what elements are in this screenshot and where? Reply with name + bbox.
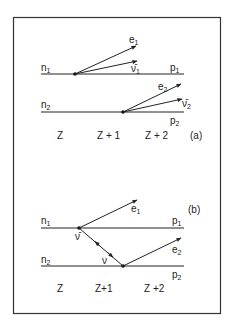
p2-label-a: p2	[170, 115, 180, 127]
panel-a: n1 p1 n2 p2 e1 ν̄1 e2 ν̄2 Z Z + 1 Z + 2 …	[41, 34, 202, 141]
electron-2-arrow-a	[123, 84, 181, 112]
n2-label-a: n2	[41, 99, 51, 111]
panel-b: n1 p1 n2 p2 e1 e2 ν̄ ν (b) Z Z+1 Z +2	[41, 200, 200, 294]
nubar2-label-a: ν̄2	[182, 98, 191, 110]
panel-tag-b: (b)	[188, 204, 200, 215]
axis-z1-b: Z+1	[95, 283, 113, 294]
n1-label-a: n1	[41, 62, 51, 74]
axis-z1-a: Z + 1	[97, 130, 121, 141]
axis-z-a: Z	[57, 130, 63, 141]
axis-z-b: Z	[57, 283, 63, 294]
antineutrino-2-arrow-a	[123, 99, 182, 112]
neutrino-exchange-line-b	[79, 228, 123, 266]
n2-label-b: n2	[41, 254, 51, 266]
antineutrino-label-b: ν̄	[75, 231, 82, 242]
antineutrino-1-arrow-a	[75, 61, 137, 74]
neutrino-label-b: ν	[102, 255, 107, 266]
axis-z2-b: Z +2	[144, 283, 165, 294]
electron-1-arrow-b	[79, 200, 137, 228]
n1-label-b: n1	[41, 215, 51, 227]
electron-1-arrow-a	[75, 46, 136, 74]
panel-tag-a: (a)	[190, 130, 202, 141]
e2-label-b: e2	[172, 244, 182, 256]
axis-z2-a: Z + 2	[145, 130, 169, 141]
e2-label-a: e2	[158, 81, 168, 93]
e1-label-b: e1	[131, 203, 141, 215]
double-beta-decay-diagram: n1 p1 n2 p2 e1 ν̄1 e2 ν̄2 Z Z + 1 Z + 2 …	[0, 0, 230, 329]
p1-label-b: p1	[172, 215, 182, 227]
p1-label-a: p1	[170, 62, 180, 74]
neutrino-arrow-down-b	[107, 252, 113, 257]
neutrino-arrow-up-b	[95, 242, 100, 246]
p2-label-b: p2	[172, 269, 182, 281]
e1-label-a: e1	[129, 34, 139, 46]
nubar1-label-a: ν̄1	[131, 63, 140, 75]
